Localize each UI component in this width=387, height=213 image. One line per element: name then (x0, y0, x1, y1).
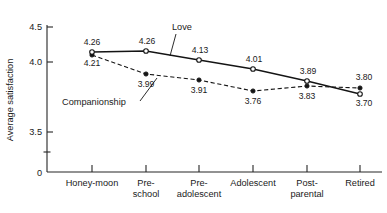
x-tick-label-retired: Retired (345, 178, 375, 188)
x-tick-label-postparental-l2: parental (290, 189, 323, 199)
line-chart-svg: 4.5 4.0 3.5 0 Average satisfaction Honey… (0, 0, 387, 213)
x-tick-label-postparental-l1: Post- (296, 178, 317, 188)
love-marker-5 (358, 92, 363, 97)
companionship-line (92, 55, 360, 91)
love-value-label-5: 3.70 (356, 98, 373, 108)
y-tick-label-4-5: 4.5 (29, 22, 42, 32)
companionship-marker-2 (197, 78, 201, 82)
series-love (90, 49, 363, 97)
love-marker-1 (144, 49, 149, 54)
annotation-companionship-label: Companionship (62, 97, 126, 107)
x-tick-label-preschool-l2: school (133, 189, 160, 199)
x-tick-label-preadolescent-l2: adolescent (177, 189, 222, 199)
cropped-caption-strip (0, 206, 387, 213)
x-tick-label-honeymoon: Honey-moon (66, 178, 119, 188)
x-tick-label-preschool-l1: Pre- (137, 178, 154, 188)
love-value-label-3: 4.01 (246, 54, 263, 64)
love-value-labels: 4.26 4.26 4.13 4.01 3.89 3.70 (84, 36, 373, 108)
y-axis-title-group: Average satisfaction (5, 59, 15, 142)
y-tick-label-0: 0 (37, 168, 42, 178)
companionship-marker-5 (358, 86, 362, 90)
love-value-label-0: 4.26 (84, 37, 101, 47)
companionship-value-label-2: 3.91 (191, 85, 208, 95)
companionship-value-label-3: 3.76 (245, 96, 262, 106)
love-value-label-2: 4.13 (192, 45, 209, 55)
y-tick-labels: 4.5 4.0 3.5 0 (29, 22, 42, 178)
y-tick-label-4-0: 4.0 (29, 57, 42, 67)
love-marker-2 (197, 58, 202, 63)
love-value-label-4: 3.89 (300, 66, 317, 76)
companionship-value-label-5: 3.80 (356, 72, 373, 82)
annotation-love-leader-line (170, 34, 176, 56)
companionship-value-label-4: 3.83 (299, 91, 316, 101)
companionship-marker-3 (251, 89, 255, 93)
series-companionship (90, 53, 362, 93)
love-marker-3 (251, 67, 256, 72)
x-tick-label-preadolescent-l1: Pre- (190, 178, 207, 188)
companionship-value-label-0: 4.21 (84, 58, 101, 68)
annotation-love-label: Love (172, 22, 192, 32)
companionship-marker-4 (305, 84, 309, 88)
love-value-label-1: 4.26 (139, 36, 156, 46)
love-line (92, 51, 360, 94)
love-marker-4 (305, 79, 310, 84)
x-tick-labels: Honey-moon Pre- school Pre- adolescent A… (66, 178, 375, 199)
annotation-love: Love (170, 22, 192, 56)
love-marker-0 (90, 50, 95, 55)
chart-figure: 4.5 4.0 3.5 0 Average satisfaction Honey… (0, 0, 387, 213)
x-tick-label-adolescent: Adolescent (230, 178, 276, 188)
y-axis-title: Average satisfaction (5, 59, 15, 142)
y-tick-label-3-5: 3.5 (29, 127, 42, 137)
companionship-marker-1 (144, 72, 148, 76)
